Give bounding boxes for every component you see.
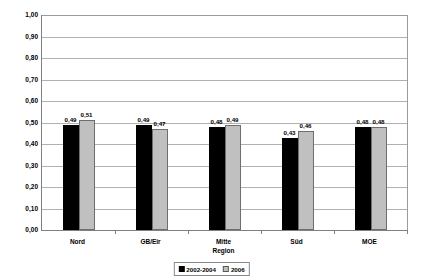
gridline: [42, 15, 407, 16]
gridline: [42, 37, 407, 38]
bar-chart: Politische Kompetenz 0,000,100,200,300,4…: [0, 0, 423, 280]
legend-entry: 2002-2004: [178, 265, 216, 274]
y-axis-tick-label: 0,10: [12, 204, 38, 214]
gridline: [42, 101, 407, 102]
y-axis-tick-label: 1,00: [12, 10, 38, 20]
y-axis-tick-label: 0,70: [12, 75, 38, 85]
bar-moe-2006: [371, 127, 387, 230]
bar-gb-eir-2006: [152, 129, 168, 230]
bar-nord-2002-2004: [63, 125, 79, 230]
legend: 2002-20042006: [173, 262, 249, 276]
x-axis-tick-mark: [261, 230, 262, 234]
y-axis-tick-labels: 0,000,100,200,300,400,500,600,700,800,90…: [12, 15, 38, 230]
legend-swatch-icon: [223, 266, 229, 272]
bar-mitte-2002-2004: [209, 127, 225, 230]
y-axis-tick-label: 0,80: [12, 53, 38, 63]
y-axis-tick-label: 0,30: [12, 161, 38, 171]
bar-nord-2006: [79, 120, 95, 230]
legend-entry: 2006: [223, 265, 245, 274]
plot-area: 0,490,510,490,470,480,490,430,460,480,48: [41, 15, 408, 231]
bar-value-label: 0,49: [218, 115, 248, 124]
bar-value-label: 0,46: [291, 121, 321, 130]
legend-swatch-icon: [178, 266, 184, 272]
y-axis-tick-label: 0,90: [12, 32, 38, 42]
y-axis-tick-label: 0,00: [12, 225, 38, 235]
bar-gb-eir-2002-2004: [136, 125, 152, 230]
legend-label: 2006: [231, 265, 245, 274]
x-axis-tick-mark: [115, 230, 116, 234]
bar-mitte-2006: [225, 125, 241, 230]
bar-value-label: 0,51: [72, 110, 102, 119]
x-axis-tick-mark: [334, 230, 335, 234]
x-axis-title: Region: [41, 247, 406, 254]
x-axis-tick-mark: [188, 230, 189, 234]
bar-s-d-2002-2004: [282, 138, 298, 230]
y-axis-tick-label: 0,40: [12, 139, 38, 149]
y-axis-tick-label: 0,20: [12, 182, 38, 192]
bar-moe-2002-2004: [355, 127, 371, 230]
legend-label: 2002-2004: [186, 265, 216, 274]
bar-s-d-2006: [298, 131, 314, 230]
gridline: [42, 80, 407, 81]
y-axis-tick-label: 0,50: [12, 118, 38, 128]
bar-value-label: 0,47: [145, 119, 175, 128]
gridline: [42, 58, 407, 59]
y-axis-tick-label: 0,60: [12, 96, 38, 106]
bar-value-label: 0,48: [364, 117, 394, 126]
x-axis-tick-mark: [407, 230, 408, 234]
